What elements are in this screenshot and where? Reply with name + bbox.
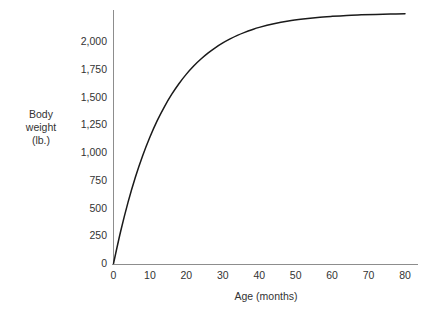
chart-container: 02505007501,0001,2501,5001,7502,000 0102… [0,0,447,314]
chart-plot-area [0,0,447,314]
growth-curve-line [114,14,406,264]
